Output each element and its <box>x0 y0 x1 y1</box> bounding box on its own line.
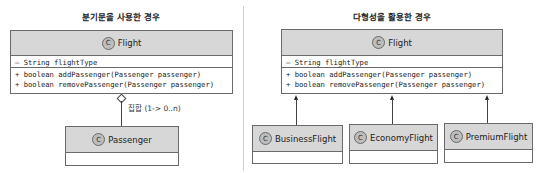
aggregation-line <box>121 101 122 126</box>
method-add-passenger: + boolean addPassenger(Passenger passeng… <box>286 70 498 80</box>
class-header: C Passenger <box>66 127 178 153</box>
class-icon: C <box>450 130 463 143</box>
panel-divider <box>243 6 244 171</box>
economy-flight-class: C EconomyFlight <box>349 124 438 164</box>
method-add-passenger: + boolean addPassenger(Passenger passeng… <box>15 70 228 80</box>
passenger-class: C Passenger <box>65 126 179 166</box>
class-icon: C <box>259 132 272 145</box>
class-name: Flight <box>388 38 412 48</box>
flight-class-right: C Flight – String flightType + boolean a… <box>281 29 503 94</box>
class-attribute: – String flightType <box>282 56 502 68</box>
flight-class-left: C Flight – String flightType + boolean a… <box>10 30 233 94</box>
inheritance-line <box>487 99 488 123</box>
inheritance-line <box>296 99 297 125</box>
inheritance-line <box>392 99 393 124</box>
left-panel-title: 분기문을 사용한 경우 <box>10 10 232 22</box>
aggregation-label: 집합 (1-> 0..n) <box>128 102 181 113</box>
method-remove-passenger: + boolean removePassenger(Passenger pass… <box>286 80 498 90</box>
class-methods: + boolean addPassenger(Passenger passeng… <box>11 68 232 92</box>
method-remove-passenger: + boolean removePassenger(Passenger pass… <box>15 80 228 90</box>
class-header: C PremiumFlight <box>445 124 532 150</box>
class-header: C EconomyFlight <box>350 125 437 151</box>
class-name: PremiumFlight <box>466 132 528 142</box>
class-name: Passenger <box>108 135 152 145</box>
class-attribute: – String flightType <box>11 56 232 68</box>
class-name: EconomyFlight <box>370 133 433 143</box>
right-panel-title: 다형성을 활용한 경우 <box>281 10 503 22</box>
class-header: C Flight <box>282 30 502 56</box>
class-name: Flight <box>118 38 142 48</box>
class-name: BusinessFlight <box>275 134 336 144</box>
class-icon: C <box>92 133 105 146</box>
class-icon: C <box>372 36 385 49</box>
class-icon: C <box>354 131 367 144</box>
class-methods: + boolean addPassenger(Passenger passeng… <box>282 68 502 92</box>
class-header: C Flight <box>11 31 232 56</box>
business-flight-class: C BusinessFlight <box>252 125 343 164</box>
premium-flight-class: C PremiumFlight <box>444 123 533 163</box>
class-icon: C <box>102 37 115 50</box>
class-header: C BusinessFlight <box>253 126 342 152</box>
